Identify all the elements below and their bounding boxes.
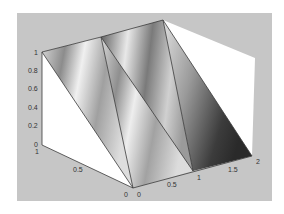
z-axis-ticks: 1 0.8 0.6 0.4 0.2 0 xyxy=(28,49,38,148)
svg-text:1: 1 xyxy=(35,148,39,155)
svg-text:2: 2 xyxy=(256,158,260,165)
svg-text:0: 0 xyxy=(124,191,128,198)
svg-text:1: 1 xyxy=(197,174,201,181)
svg-text:1: 1 xyxy=(34,49,38,56)
svg-text:0.2: 0.2 xyxy=(28,122,38,129)
surface-plot: 1 0.8 0.6 0.4 0.2 0 1 0.5 0 0 0.5 1 1.5 … xyxy=(0,0,284,214)
svg-text:0.5: 0.5 xyxy=(167,181,177,188)
svg-text:0.8: 0.8 xyxy=(28,67,38,74)
svg-text:0.5: 0.5 xyxy=(73,166,83,173)
svg-text:0.4: 0.4 xyxy=(28,104,38,111)
svg-text:0.6: 0.6 xyxy=(28,85,38,92)
svg-text:0: 0 xyxy=(137,191,141,198)
svg-text:1.5: 1.5 xyxy=(228,166,238,173)
svg-text:0: 0 xyxy=(34,141,38,148)
